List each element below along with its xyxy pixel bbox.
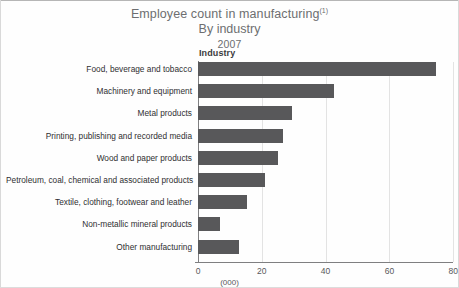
bar xyxy=(198,129,283,143)
bar xyxy=(198,173,265,187)
gridline-80 xyxy=(453,62,454,262)
bar xyxy=(198,217,220,231)
bar-row: Printing, publishing and recorded media xyxy=(198,129,453,143)
bar xyxy=(198,240,239,254)
category-label: Textile, clothing, footwear and leather xyxy=(6,195,192,209)
bar-row: Non-metallic mineral products xyxy=(198,217,453,231)
x-tick-label: 40 xyxy=(321,266,330,276)
bar-row: Other manufacturing xyxy=(198,240,453,254)
chart-title-footnote-marker: (1) xyxy=(320,7,329,14)
bar xyxy=(198,151,278,165)
category-label: Other manufacturing xyxy=(6,240,192,254)
bar-row: Metal products xyxy=(198,106,453,120)
category-label: Petroleum, coal, chemical and associated… xyxy=(6,173,192,187)
chart-title-text: Employee count in manufacturing xyxy=(131,7,320,21)
x-tick-label: 60 xyxy=(385,266,394,276)
top-border-rule xyxy=(0,0,459,1)
page-title: Employee count in manufacturing(1) xyxy=(0,3,459,22)
bar xyxy=(198,84,334,98)
bar-row: Textile, clothing, footwear and leather xyxy=(198,195,453,209)
x-tick-label: 20 xyxy=(257,266,266,276)
bar xyxy=(198,195,247,209)
chart-title-block: Employee count in manufacturing(1) By in… xyxy=(0,3,459,51)
category-label: Wood and paper products xyxy=(6,151,192,165)
bar-row: Wood and paper products xyxy=(198,151,453,165)
chart-figure: Employee count in manufacturing(1) By in… xyxy=(0,0,459,288)
category-label: Non-metallic mineral products xyxy=(6,217,192,231)
bar xyxy=(198,106,292,120)
category-label: Food, beverage and tobacco xyxy=(6,62,192,76)
chart-subtitle: By industry xyxy=(0,22,459,37)
x-axis-line xyxy=(195,262,453,263)
plot-area: Food, beverage and tobaccoMachinery and … xyxy=(198,62,453,262)
bar xyxy=(198,62,436,76)
x-axis-unit-label: (000) xyxy=(0,278,459,287)
category-label: Printing, publishing and recorded media xyxy=(6,129,192,143)
bar-row: Petroleum, coal, chemical and associated… xyxy=(198,173,453,187)
x-tick-label: 80 xyxy=(448,266,457,276)
bar-row: Food, beverage and tobacco xyxy=(198,62,453,76)
bar-row: Machinery and equipment xyxy=(198,84,453,98)
axis-group-header: Industry xyxy=(199,48,235,58)
x-tick-label: 0 xyxy=(196,266,201,276)
category-label: Metal products xyxy=(6,106,192,120)
category-label: Machinery and equipment xyxy=(6,84,192,98)
